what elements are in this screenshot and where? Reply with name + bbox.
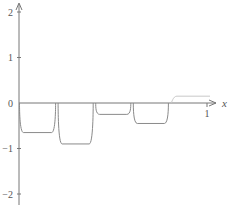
x-tick-label: 1 [205, 108, 210, 119]
y-tick-label: 2 [8, 7, 13, 18]
axes [16, 3, 216, 205]
step-segment [20, 103, 56, 133]
step-segment [58, 103, 93, 144]
y-tick-label: 0 [8, 98, 13, 109]
y-tick-label: −1 [2, 143, 13, 154]
step-segment [96, 103, 131, 114]
chart: 210−1−21 x [0, 0, 236, 217]
step-segment [171, 96, 210, 103]
x-axis-label: x [221, 97, 227, 109]
step-segment [133, 103, 168, 123]
y-tick-label: 1 [8, 52, 13, 63]
y-tick-label: −2 [2, 189, 13, 200]
